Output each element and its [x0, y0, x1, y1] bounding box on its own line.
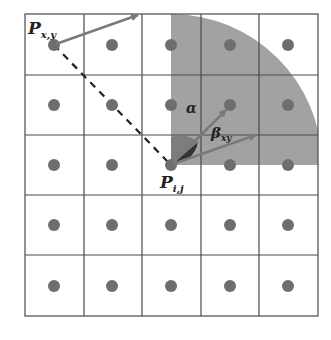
grid-diagram: Px,y Pi,j α βxy — [0, 0, 331, 340]
label-alpha: α — [186, 100, 197, 116]
label-pxy: Px,y — [27, 18, 57, 41]
arrow-from-pxy — [56, 15, 138, 44]
label-pij: Pi,j — [159, 172, 184, 195]
